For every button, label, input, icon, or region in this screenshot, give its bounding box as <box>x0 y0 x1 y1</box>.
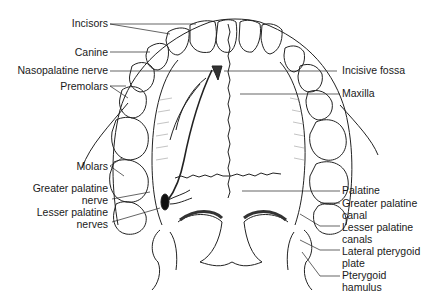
right-canine <box>284 46 305 72</box>
choanae-outline <box>178 215 288 266</box>
label-palatine: Palatine <box>342 184 380 196</box>
greater-palatine-nerve-path <box>168 70 212 200</box>
label-greater-palatine-canal: Greater palatine canal <box>342 197 417 221</box>
palate-diagram: Incisors Canine Nasopalatine nerve Premo… <box>0 0 435 303</box>
label-line-1: Lesser palatine <box>37 206 108 218</box>
label-greater-palatine-nerve: Greater palatine nerve <box>33 182 108 206</box>
right-molar-1 <box>310 120 347 161</box>
label-premolars: Premolars <box>60 80 108 92</box>
label-line-2: canal <box>342 209 417 221</box>
left-pterygoid-plate <box>152 230 160 290</box>
label-lesser-palatine-nerves: Lesser palatine nerves <box>37 206 108 230</box>
label-incisors: Incisors <box>72 17 108 29</box>
nerve-twig-2 <box>170 198 192 204</box>
nerve-branch-1 <box>176 78 206 130</box>
label-lateral-pterygoid-plate: Lateral pterygoid plate <box>342 245 420 269</box>
left-molar-3 <box>114 202 147 235</box>
label-line-1: Lateral pterygoid <box>342 245 420 257</box>
incisive-fossa-mark <box>212 66 222 80</box>
label-line-1: Greater palatine <box>342 197 417 209</box>
label-line-2: hamulus <box>342 281 386 293</box>
label-lesser-palatine-canals: Lesser palatine canals <box>342 221 413 245</box>
label-line-2: plate <box>342 257 420 269</box>
left-canine <box>146 43 169 70</box>
right-pterygoid-hamulus <box>287 232 294 270</box>
label-line-1: Pterygoid <box>342 269 386 281</box>
left-pterygoid-hamulus <box>170 232 177 270</box>
label-molars: Molars <box>76 160 108 172</box>
label-nasopalatine-nerve: Nasopalatine nerve <box>18 64 108 76</box>
right-premolar-1 <box>298 64 322 92</box>
label-line-1: Lesser palatine <box>342 221 413 233</box>
greater-palatine-foramen <box>161 194 169 210</box>
median-palatine-suture <box>228 24 230 198</box>
incisor-teeth <box>166 20 282 55</box>
label-line-2: nerves <box>37 218 108 230</box>
left-choana-shadow <box>180 212 222 221</box>
transverse-palatine-suture <box>175 173 281 178</box>
label-incisive-fossa: Incisive fossa <box>342 64 405 76</box>
label-pterygoid-hamulus: Pterygoid hamulus <box>342 269 386 293</box>
label-line-1: Greater palatine <box>33 182 108 194</box>
right-choana-shadow <box>244 212 286 221</box>
label-maxilla: Maxilla <box>342 87 375 99</box>
label-line-2: canals <box>342 233 413 245</box>
label-canine: Canine <box>75 46 108 58</box>
label-line-2: nerve <box>33 194 108 206</box>
palate-inner-right <box>280 62 305 225</box>
right-premolar-2 <box>306 90 332 120</box>
